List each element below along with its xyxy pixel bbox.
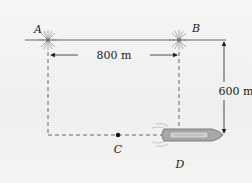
dim-800-label: 800 m — [97, 49, 132, 62]
boat-icon — [152, 123, 223, 146]
diagram-canvas: A B 800 m C 600 m D — [0, 0, 252, 183]
label-b: B — [191, 22, 200, 35]
label-d: D — [175, 158, 185, 171]
point-c — [116, 133, 120, 137]
light-b-icon — [169, 30, 189, 50]
label-c: C — [114, 143, 123, 156]
label-a: A — [33, 23, 42, 36]
diagram-svg: A B 800 m C 600 m D — [0, 0, 252, 183]
dim-600-label: 600 m — [219, 85, 252, 98]
